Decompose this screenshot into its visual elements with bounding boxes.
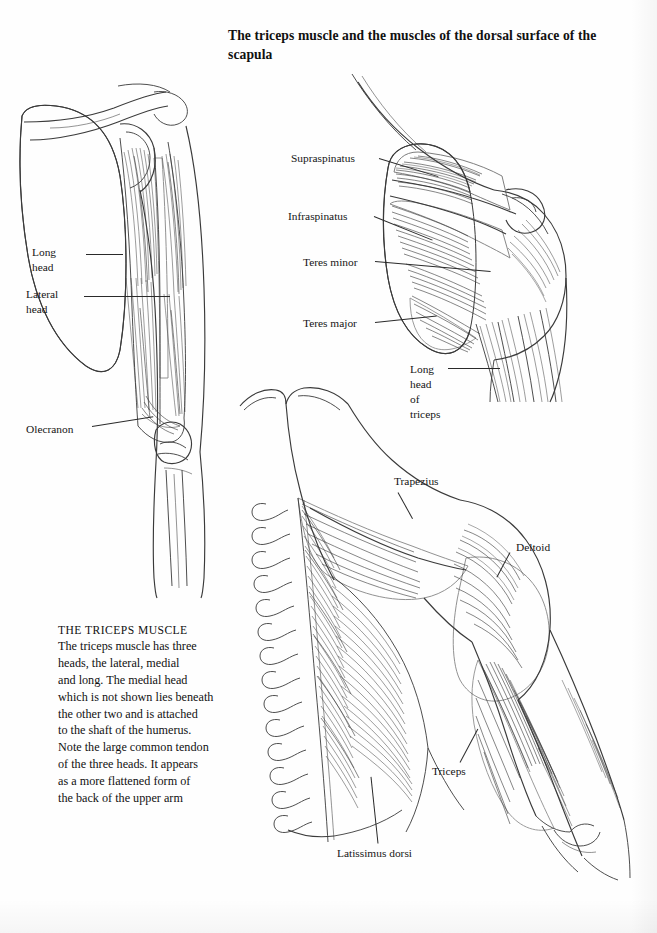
leader-long-head-of-triceps	[448, 368, 500, 369]
label-teres-minor: Teres minor	[303, 255, 358, 270]
caption-body: The triceps muscle has three heads, the …	[58, 638, 258, 807]
label-latissimus-dorsi: Latissimus dorsi	[337, 846, 412, 861]
label-teres-major: Teres major	[303, 316, 357, 331]
label-long-head: Long head	[32, 245, 56, 275]
label-deltoid: Deltoid	[516, 540, 550, 555]
leader-lateral-head	[84, 296, 170, 297]
label-infraspinatus: Infraspinatus	[288, 209, 347, 224]
page-edge-shadow-bottom	[0, 899, 657, 933]
page-title: The triceps muscle and the muscles of th…	[228, 26, 628, 65]
label-olecranon: Olecranon	[26, 422, 73, 437]
figure-posterior-arm-scapula	[8, 78, 223, 598]
figure-back-and-arm	[232, 380, 647, 885]
page-canvas: The triceps muscle and the muscles of th…	[0, 0, 657, 933]
caption-block: THE TRICEPS MUSCLE The triceps muscle ha…	[58, 624, 258, 807]
figure-dorsal-scapula-muscles	[352, 72, 622, 402]
label-trapezius: Trapezius	[394, 474, 439, 489]
caption-heading: THE TRICEPS MUSCLE	[58, 624, 258, 637]
label-lateral-head: Lateral head	[26, 287, 58, 317]
leader-long-head	[86, 254, 123, 255]
label-triceps: Triceps	[432, 764, 466, 779]
label-supraspinatus: Supraspinatus	[291, 151, 355, 166]
